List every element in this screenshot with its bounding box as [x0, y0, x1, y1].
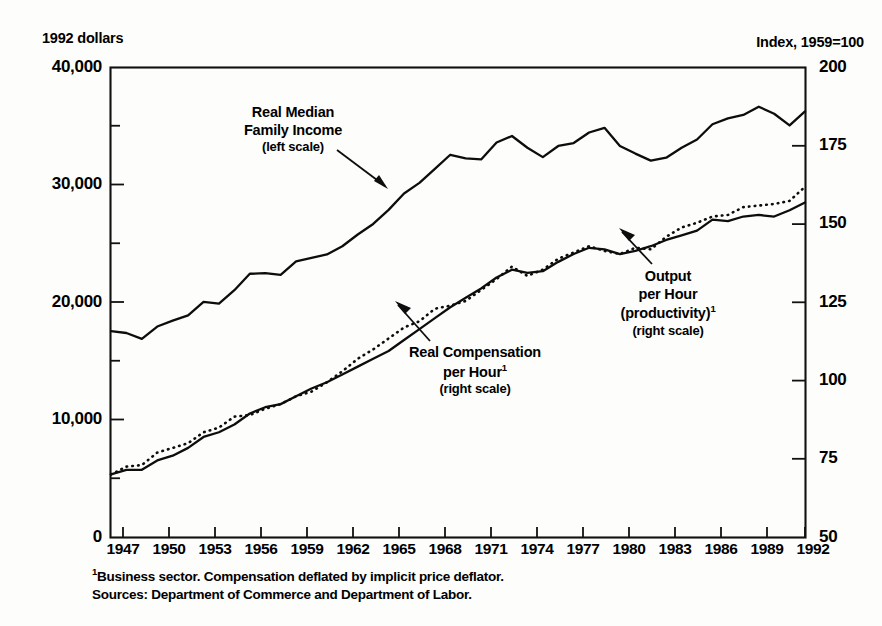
series-output-per-hour: [111, 187, 805, 475]
footnote-sources: Sources: Department of Commerce and Depa…: [92, 586, 504, 605]
series-real-median-family-income: [111, 107, 805, 339]
footnote-note-text: Business sector. Compensation deflated b…: [97, 569, 504, 584]
arrow-income: [337, 150, 388, 189]
arrow-productivity: [619, 228, 652, 264]
x-axis-ticks: [123, 527, 805, 537]
plot-area: [0, 0, 882, 626]
footnotes: 1Business sector. Compensation deflated …: [92, 565, 504, 605]
footnote-note: 1Business sector. Compensation deflated …: [92, 565, 504, 586]
series-real-compensation-per-hour: [111, 202, 805, 474]
chart-figure: 1992 dollars Index, 1959=100 40,000 30,0…: [0, 0, 882, 626]
left-axis-ticks: [110, 126, 124, 479]
